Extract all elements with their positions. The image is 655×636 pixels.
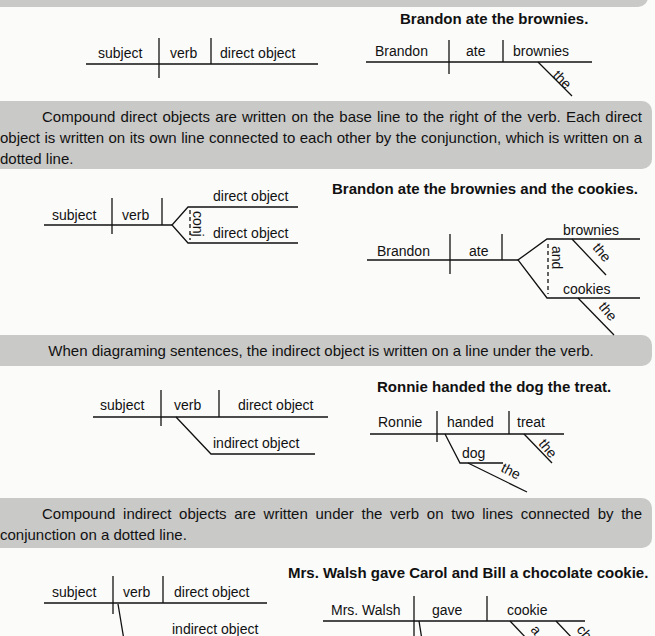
diagrams: subject verb direct object Brandon ate b… (0, 0, 655, 636)
subject-label: subject (52, 207, 96, 223)
conjunction-word: and (549, 246, 565, 269)
modifier-word: a (528, 622, 545, 636)
example-diagram-ronnie: Ronnie handed treat dog the the (370, 411, 564, 492)
direct-object-word: brownies (563, 222, 619, 238)
verb-label: verb (170, 45, 197, 61)
template-diagram-compound-direct-object: subject verb direct object direct object… (44, 188, 298, 243)
direct-object-word: treat (517, 414, 545, 430)
subject-label: subject (100, 397, 144, 413)
verb-word: gave (432, 602, 463, 618)
modifier-word: the (550, 67, 575, 92)
subject-label: subject (52, 584, 96, 600)
template-diagram-direct-object: subject verb direct object (86, 38, 318, 78)
conjunction-label: conj (190, 211, 206, 237)
subject-word: Ronnie (378, 414, 423, 430)
modifier-word: ch (574, 622, 596, 636)
verb-label: verb (122, 207, 149, 223)
subject-word: Brandon (375, 43, 428, 59)
example-diagram-mrs-walsh: Mrs. Walsh gave cookie a ch (323, 596, 595, 636)
direct-object-label: direct object (213, 188, 289, 204)
example-diagram-brandon-compound: Brandon ate brownies cookies and the the (367, 222, 640, 335)
indirect-object-label: indirect object (172, 621, 258, 636)
direct-object-word: cookie (507, 602, 548, 618)
subject-word: Mrs. Walsh (331, 602, 400, 618)
verb-word: handed (447, 414, 494, 430)
verb-label: verb (123, 584, 150, 600)
indirect-object-word: dog (462, 445, 485, 461)
direct-object-label: direct object (220, 45, 296, 61)
direct-object-label: direct object (213, 225, 289, 241)
direct-object-word: brownies (513, 43, 569, 59)
direct-object-label: direct object (174, 584, 250, 600)
subject-word: Brandon (377, 243, 430, 259)
verb-word: ate (466, 43, 486, 59)
verb-label: verb (174, 397, 201, 413)
indirect-object-label: indirect object (213, 435, 299, 451)
example-diagram-brandon: Brandon ate brownies the (366, 40, 592, 96)
direct-object-label: direct object (238, 397, 314, 413)
verb-word: ate (469, 243, 489, 259)
subject-label: subject (98, 45, 142, 61)
template-diagram-indirect-object: subject verb direct object indirect obje… (93, 390, 328, 454)
modifier-word: the (536, 436, 561, 461)
direct-object-word: cookies (563, 281, 610, 297)
template-diagram-compound-indirect-object: subject verb direct object indirect obje… (44, 576, 267, 636)
